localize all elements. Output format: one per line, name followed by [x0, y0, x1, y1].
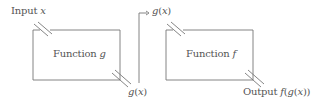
g-output-label: g(x) [128, 86, 147, 97]
connector-line [139, 13, 147, 83]
input-label: Input x [11, 5, 46, 16]
output-label: Output f(g(x)) [243, 86, 310, 97]
g-to-f-label: g(x) [152, 5, 171, 16]
function-f-label: Function f [186, 48, 236, 59]
function-g-label: Function g [53, 48, 106, 59]
